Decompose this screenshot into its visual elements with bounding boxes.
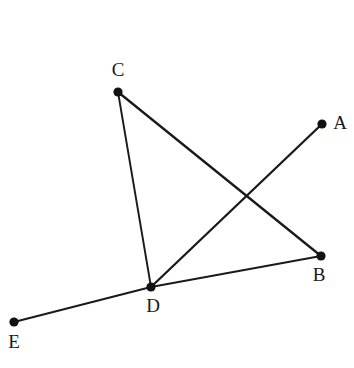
segments-layer <box>14 92 322 322</box>
segment-da <box>151 124 322 287</box>
point-label-a: A <box>333 112 347 133</box>
geometry-figure: ABCDE <box>0 0 354 368</box>
segment-ed <box>14 287 151 322</box>
vertices-layer <box>9 87 326 326</box>
geometry-canvas: ABCDE <box>0 0 354 368</box>
point-label-d: D <box>146 295 160 316</box>
vertex-point-d <box>146 282 155 291</box>
point-label-c: C <box>112 59 125 80</box>
vertex-point-e <box>9 317 18 326</box>
vertex-point-a <box>317 119 326 128</box>
point-label-b: B <box>313 264 326 285</box>
segment-db <box>151 256 321 287</box>
segment-cb <box>118 92 321 256</box>
point-label-e: E <box>8 331 20 352</box>
point-labels-layer: ABCDE <box>8 59 347 352</box>
vertex-point-c <box>113 87 122 96</box>
vertex-point-b <box>316 251 325 260</box>
segment-cd <box>118 92 151 287</box>
